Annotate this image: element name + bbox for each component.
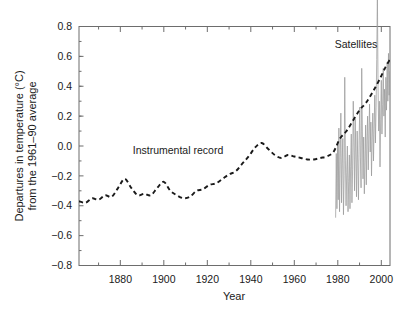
x-tick-label-0: 1880 (109, 273, 133, 285)
x-tick-label-1: 1900 (152, 273, 176, 285)
y-tick-label-6: 0.4 (57, 80, 72, 92)
plot-frame (79, 27, 390, 266)
x-tick-label-4: 1960 (283, 273, 307, 285)
y-tick-label-3: −0.2 (51, 170, 72, 182)
x-tick-label-3: 1940 (239, 273, 263, 285)
y-axis-title-line1: Departures in temperature (°C) (13, 70, 25, 221)
y-tick-label-2: −0.4 (51, 199, 72, 211)
y-tick-label-5: 0.2 (57, 110, 72, 122)
y-axis-title-line2: from the 1961–90 average (26, 81, 38, 210)
y-tick-label-0: −0.8 (51, 259, 72, 271)
temperature-anomaly-chart: −0.8−0.6−0.4−0.20.00.20.40.60.8 18801900… (0, 0, 418, 312)
annotation-instrumental-record: Instrumental record (133, 144, 224, 156)
x-tick-label-6: 2000 (370, 273, 394, 285)
series-satellites (336, 0, 390, 218)
y-tick-label-7: 0.6 (57, 50, 72, 62)
y-tick-label-8: 0.8 (57, 20, 72, 32)
x-tick-label-5: 1980 (326, 273, 350, 285)
annotation-satellites: Satellites (335, 38, 378, 50)
x-axis-title: Year (223, 290, 246, 302)
y-tick-label-1: −0.6 (51, 229, 72, 241)
y-tick-label-4: 0.0 (57, 140, 72, 152)
chart-figure: −0.8−0.6−0.4−0.20.00.20.40.60.8 18801900… (0, 0, 418, 312)
x-tick-label-2: 1920 (196, 273, 220, 285)
y-axis-title: Departures in temperature (°C) from the … (13, 70, 38, 221)
